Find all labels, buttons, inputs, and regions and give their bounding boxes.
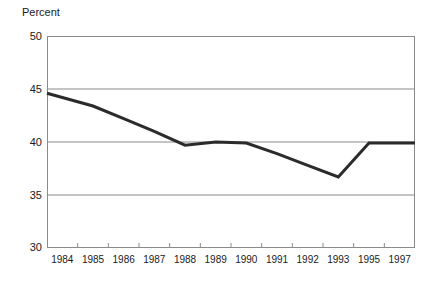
line-chart: Percent 50 45 40 35 30 1984 1985 1986 19… bbox=[0, 0, 440, 290]
chart-canvas bbox=[0, 0, 440, 290]
x-axis-ticks bbox=[78, 243, 385, 248]
data-series-line bbox=[47, 93, 415, 177]
